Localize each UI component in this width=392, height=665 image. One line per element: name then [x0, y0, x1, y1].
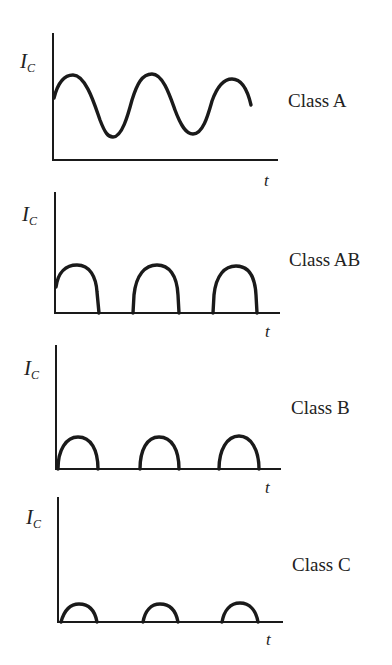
collector-current-pulse — [133, 265, 179, 313]
y-axis-label: IC — [25, 505, 42, 531]
y-axis-label: IC — [19, 49, 36, 75]
panel-class-a: IC t Class A — [19, 33, 347, 190]
collector-current-waveform — [54, 74, 251, 137]
panel-label: Class A — [288, 90, 347, 111]
collector-current-pulse — [222, 603, 258, 622]
x-axis-label: t — [265, 322, 271, 341]
collector-current-pulse — [140, 437, 179, 469]
panel-class-ab: IC t Class AB — [21, 192, 360, 341]
amplifier-classes-figure: IC t Class A IC t Class AB IC t Class B — [0, 0, 392, 665]
panel-label: Class C — [292, 554, 351, 575]
x-axis-label: t — [265, 478, 271, 497]
panel-label: Class B — [291, 397, 350, 418]
collector-current-pulse — [219, 436, 259, 469]
collector-current-pulse — [213, 266, 257, 313]
panel-class-b: IC t Class B — [23, 345, 350, 497]
collector-current-pulse — [61, 604, 97, 622]
collector-current-pulse — [56, 265, 99, 313]
panel-class-c: IC t Class C — [25, 497, 351, 649]
x-axis-label: t — [266, 630, 272, 649]
collector-current-pulse — [58, 437, 98, 469]
collector-current-pulse — [143, 604, 178, 622]
x-axis-label: t — [264, 171, 270, 190]
y-axis-label: IC — [21, 202, 38, 228]
panel-label: Class AB — [289, 249, 360, 270]
y-axis-label: IC — [23, 356, 40, 382]
